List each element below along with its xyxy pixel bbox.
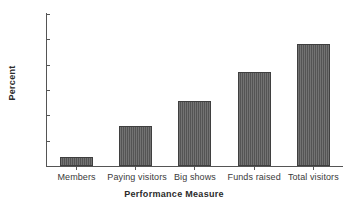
x-axis-tick: [226, 166, 283, 170]
bar-series: [47, 14, 343, 166]
x-axis-tick-mark: [135, 166, 136, 170]
bar-slot: [107, 14, 164, 166]
bar: [178, 101, 211, 166]
x-axis-tick-label: Funds raised: [226, 172, 283, 182]
x-axis-tick-labels: MembersPaying visitorsBig showsFunds rai…: [47, 172, 343, 182]
x-axis-tick-mark: [194, 166, 195, 170]
bar-slot: [226, 14, 283, 166]
x-axis-tick-label: Total visitors: [285, 172, 342, 182]
bar: [119, 126, 152, 166]
y-axis-title: Percent: [7, 65, 17, 100]
x-axis-ticks: [47, 166, 343, 170]
bar: [238, 72, 271, 166]
x-axis-tick-mark: [254, 166, 255, 170]
bar-slot: [167, 14, 224, 166]
x-axis-tick: [167, 166, 224, 170]
bar: [297, 44, 330, 166]
x-axis-tick-label: Big shows: [167, 172, 224, 182]
x-axis-tick: [107, 166, 164, 170]
bar-slot: [285, 14, 342, 166]
x-axis-tick-label: Paying visitors: [107, 172, 164, 182]
x-axis-tick: [285, 166, 342, 170]
x-axis-title: Performance Measure: [0, 189, 348, 199]
bar: [60, 157, 93, 166]
bar-slot: [48, 14, 105, 166]
x-axis-tick: [48, 166, 105, 170]
x-axis-tick-mark: [313, 166, 314, 170]
bar-chart: Percent 12151821242730 MembersPaying vis…: [0, 0, 348, 208]
x-axis-tick-label: Members: [48, 172, 105, 182]
x-axis-tick-mark: [76, 166, 77, 170]
